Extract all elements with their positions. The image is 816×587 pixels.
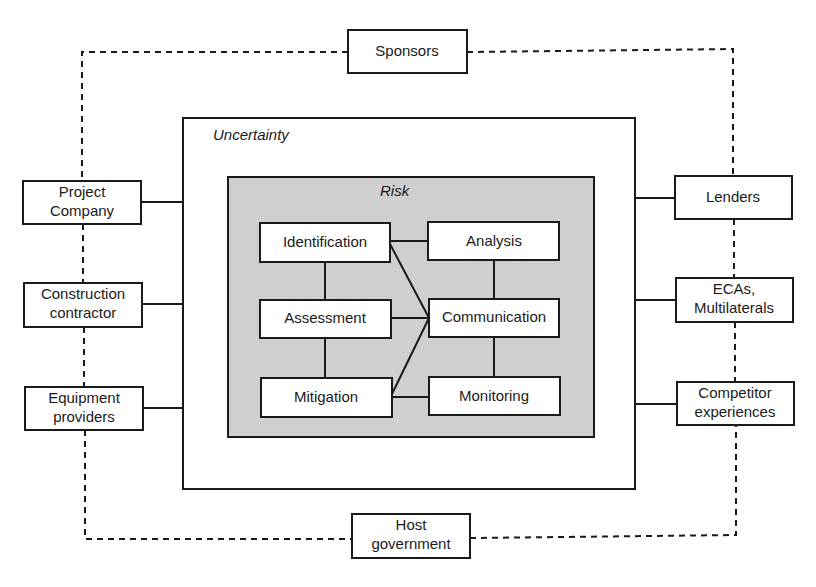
risk-step-monitoring[interactable]: Monitoring [429,377,560,415]
stakeholder-construction-contractor[interactable]: Construction contractor [24,283,142,327]
stakeholder-label-line2: Company [50,202,115,219]
stakeholder-label-line2: contractor [50,304,117,321]
risk-step-label: Assessment [284,309,367,326]
risk-step-communication[interactable]: Communication [429,299,559,337]
risk-label: Risk [380,182,411,199]
stakeholder-label-line2: providers [53,408,115,425]
stakeholder-host-government[interactable]: Host government [352,514,470,558]
risk-step-label: Communication [442,308,546,325]
risk-uncertainty-diagram: Uncertainty Risk Identification Assessme… [0,0,816,587]
stakeholder-label-line2: experiences [695,403,776,420]
stakeholder-label-line1: Equipment [48,389,121,406]
uncertainty-label: Uncertainty [213,126,290,143]
risk-step-label: Monitoring [459,387,529,404]
risk-step-analysis[interactable]: Analysis [428,222,559,260]
stakeholder-label-line2: government [371,535,451,552]
risk-step-label: Identification [283,233,367,250]
stakeholder-project-company[interactable]: Project Company [23,181,141,224]
risk-step-assessment[interactable]: Assessment [260,300,391,338]
stakeholder-lenders[interactable]: Lenders [675,176,792,219]
stakeholder-equipment-providers[interactable]: Equipment providers [25,387,143,430]
risk-step-label: Mitigation [294,388,358,405]
stakeholder-label-line1: Host [396,516,428,533]
stakeholder-label-line1: Competitor [698,384,771,401]
stakeholder-label-line2: Multilaterals [694,299,774,316]
stakeholder-label-line1: Construction [41,285,125,302]
stakeholder-competitor-experiences[interactable]: Competitor experiences [677,382,794,425]
stakeholder-label: Sponsors [375,42,438,59]
stakeholder-label-line1: ECAs, [713,280,756,297]
risk-step-identification[interactable]: Identification [260,223,390,262]
stakeholder-sponsors[interactable]: Sponsors [348,30,467,73]
stakeholder-ecas-multilaterals[interactable]: ECAs, Multilaterals [676,278,793,322]
stakeholder-label-line1: Project [59,183,107,200]
risk-step-mitigation[interactable]: Mitigation [261,378,392,417]
stakeholder-label: Lenders [706,188,760,205]
risk-step-label: Analysis [466,232,522,249]
